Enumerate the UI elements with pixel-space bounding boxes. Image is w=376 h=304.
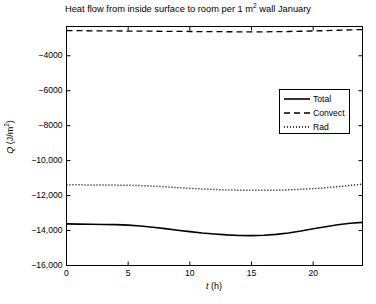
- legend-swatch-rad: [284, 120, 310, 134]
- series-line-convect: [67, 30, 363, 32]
- legend-label: Convect: [313, 107, 345, 119]
- legend-item-total[interactable]: Total: [280, 92, 351, 106]
- x-axis-unit: (h): [209, 281, 223, 291]
- x-tick-label: 5: [108, 269, 148, 278]
- y-tick-label: −4000: [0, 51, 63, 60]
- legend-swatch-total: [284, 92, 310, 106]
- plot-frame: [67, 27, 363, 266]
- series-line-total: [67, 222, 363, 235]
- y-tick-label: −14,000: [0, 226, 63, 235]
- legend: TotalConvectRad: [279, 89, 350, 134]
- legend-label: Rad: [313, 121, 329, 133]
- x-tick-label: 15: [232, 269, 272, 278]
- legend-item-rad[interactable]: Rad: [280, 120, 351, 134]
- plot-area: [0, 0, 376, 304]
- x-axis-label: t (h): [66, 281, 362, 291]
- y-tick-label: −8000: [0, 121, 63, 130]
- y-tick-label: −6000: [0, 86, 63, 95]
- y-tick-label: −16,000: [0, 261, 63, 270]
- legend-item-convect[interactable]: Convect: [280, 106, 351, 120]
- y-tick-label: −12,000: [0, 191, 63, 200]
- series-line-rad: [67, 184, 363, 190]
- figure-canvas: Heat flow from inside surface to room pe…: [0, 0, 376, 304]
- legend-label: Total: [313, 93, 331, 105]
- y-axis-variable: Q: [5, 147, 15, 154]
- x-tick-label: 10: [170, 269, 210, 278]
- legend-swatch-convect: [284, 106, 310, 120]
- y-tick-label: −10,000: [0, 156, 63, 165]
- x-tick-label: 20: [293, 269, 333, 278]
